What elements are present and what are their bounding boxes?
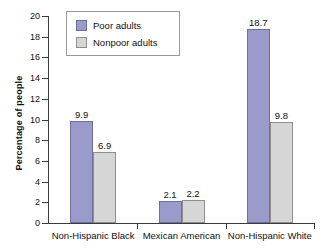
y-axis-tick-label: 6 bbox=[16, 156, 40, 166]
y-axis-tick-label: 14 bbox=[16, 73, 40, 83]
legend-item-nonpoor-adults: Nonpoor adults bbox=[76, 34, 179, 51]
legend-label-poor-adults: Poor adults bbox=[93, 20, 141, 31]
legend-swatch-icon-nonpoor-adults bbox=[76, 37, 87, 48]
bar-value-label: 6.9 bbox=[98, 140, 111, 151]
x-axis-label: Non-Hispanic Black bbox=[49, 230, 137, 241]
x-axis-separator-tick bbox=[137, 223, 138, 229]
bar-poor-adults: 2.1 bbox=[159, 201, 182, 223]
x-axis-label: Non-Hispanic White bbox=[226, 230, 314, 241]
bar-value-label: 2.1 bbox=[163, 189, 176, 200]
bar-value-label: 9.9 bbox=[75, 109, 88, 120]
y-axis-tick-label: 12 bbox=[16, 94, 40, 104]
y-axis-tick-label: 18 bbox=[16, 32, 40, 42]
y-axis-tick bbox=[42, 37, 49, 38]
y-axis-tick-label: 20 bbox=[16, 11, 40, 21]
y-axis-tick-label: 0 bbox=[16, 218, 40, 228]
y-axis-tick-label: 2 bbox=[16, 197, 40, 207]
legend-swatch-icon-poor-adults bbox=[76, 20, 87, 31]
legend: Poor adults Nonpoor adults bbox=[66, 11, 180, 56]
bar-chart: Percentage of people 02468101214161820 9… bbox=[0, 0, 321, 252]
x-axis-end-tick bbox=[314, 223, 315, 229]
bar-value-label: 2.2 bbox=[186, 188, 199, 199]
y-axis-tick-label: 4 bbox=[16, 177, 40, 187]
bar-poor-adults: 9.9 bbox=[70, 121, 93, 223]
y-axis-tick bbox=[42, 120, 49, 121]
y-axis-tick-label: 8 bbox=[16, 135, 40, 145]
bar-value-label: 9.8 bbox=[275, 110, 288, 121]
x-axis-separator-tick bbox=[226, 223, 227, 229]
bar-nonpoor-adults: 9.8 bbox=[270, 122, 293, 223]
y-axis-tick bbox=[42, 140, 49, 141]
y-axis-tick-label: 16 bbox=[16, 52, 40, 62]
y-axis-tick bbox=[42, 202, 49, 203]
y-axis-tick bbox=[42, 182, 49, 183]
y-axis-tick bbox=[42, 78, 49, 79]
y-axis-tick bbox=[42, 223, 49, 224]
bar-nonpoor-adults: 6.9 bbox=[93, 152, 116, 223]
y-axis-tick bbox=[42, 99, 49, 100]
x-axis-label: Mexican American bbox=[137, 230, 225, 241]
bar-poor-adults: 18.7 bbox=[247, 29, 270, 223]
bar-nonpoor-adults: 2.2 bbox=[182, 200, 205, 223]
y-axis-tick-label: 10 bbox=[16, 115, 40, 125]
y-axis-tick bbox=[42, 161, 49, 162]
legend-item-poor-adults: Poor adults bbox=[76, 17, 179, 34]
bar-value-label: 18.7 bbox=[249, 17, 268, 28]
legend-label-nonpoor-adults: Nonpoor adults bbox=[93, 37, 157, 48]
y-axis-tick bbox=[42, 57, 49, 58]
y-axis-tick bbox=[42, 16, 49, 17]
x-axis-line bbox=[48, 223, 314, 224]
